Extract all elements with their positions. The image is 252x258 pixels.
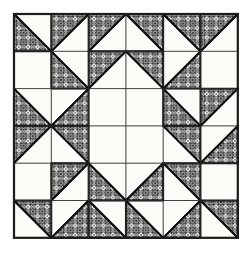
quilt-diagram-figure: [0, 0, 252, 258]
quilt-block-svg: [0, 0, 252, 258]
quilt-block-group: [14, 14, 238, 238]
